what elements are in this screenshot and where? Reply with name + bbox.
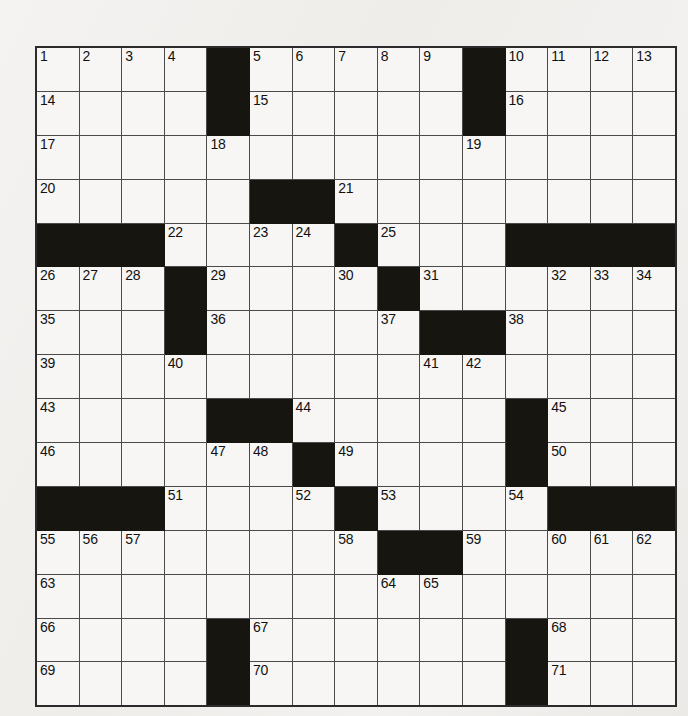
crossword-cell[interactable] — [590, 399, 633, 443]
crossword-cell[interactable] — [207, 530, 250, 574]
crossword-cell[interactable] — [207, 486, 250, 530]
crossword-cell[interactable]: 24 — [292, 223, 335, 267]
crossword-cell[interactable]: 28 — [122, 267, 165, 311]
crossword-cell[interactable]: 18 — [207, 135, 250, 179]
crossword-cell[interactable]: 53 — [377, 486, 420, 530]
crossword-cell[interactable]: 22 — [164, 223, 207, 267]
crossword-cell[interactable] — [633, 135, 676, 179]
crossword-cell[interactable]: 51 — [164, 486, 207, 530]
crossword-cell[interactable]: 52 — [292, 486, 335, 530]
crossword-cell[interactable] — [79, 179, 122, 223]
crossword-cell[interactable] — [164, 135, 207, 179]
crossword-cell[interactable] — [164, 399, 207, 443]
crossword-cell[interactable]: 36 — [207, 311, 250, 355]
crossword-cell[interactable] — [462, 179, 505, 223]
crossword-cell[interactable]: 70 — [249, 662, 292, 706]
crossword-cell[interactable] — [505, 355, 548, 399]
crossword-cell[interactable] — [420, 135, 463, 179]
crossword-cell[interactable] — [633, 311, 676, 355]
crossword-cell[interactable] — [633, 179, 676, 223]
crossword-cell[interactable]: 1 — [36, 47, 79, 91]
crossword-cell[interactable] — [164, 443, 207, 487]
crossword-cell[interactable] — [79, 311, 122, 355]
crossword-cell[interactable]: 10 — [505, 47, 548, 91]
crossword-cell[interactable] — [590, 179, 633, 223]
crossword-cell[interactable] — [249, 311, 292, 355]
crossword-cell[interactable] — [548, 355, 591, 399]
crossword-cell[interactable]: 71 — [548, 662, 591, 706]
crossword-cell[interactable]: 64 — [377, 574, 420, 618]
crossword-cell[interactable]: 65 — [420, 574, 463, 618]
crossword-cell[interactable] — [164, 530, 207, 574]
crossword-cell[interactable] — [590, 443, 633, 487]
crossword-cell[interactable] — [462, 574, 505, 618]
crossword-cell[interactable] — [335, 91, 378, 135]
crossword-cell[interactable]: 35 — [36, 311, 79, 355]
crossword-cell[interactable] — [420, 443, 463, 487]
crossword-cell[interactable] — [79, 443, 122, 487]
crossword-cell[interactable] — [420, 618, 463, 662]
crossword-cell[interactable]: 45 — [548, 399, 591, 443]
crossword-cell[interactable] — [207, 355, 250, 399]
crossword-cell[interactable] — [79, 662, 122, 706]
crossword-cell[interactable] — [462, 618, 505, 662]
crossword-cell[interactable] — [377, 135, 420, 179]
crossword-cell[interactable]: 6 — [292, 47, 335, 91]
crossword-cell[interactable]: 34 — [633, 267, 676, 311]
crossword-cell[interactable]: 14 — [36, 91, 79, 135]
crossword-cell[interactable] — [79, 91, 122, 135]
crossword-cell[interactable] — [249, 135, 292, 179]
crossword-cell[interactable]: 2 — [79, 47, 122, 91]
crossword-cell[interactable]: 11 — [548, 47, 591, 91]
crossword-cell[interactable] — [79, 399, 122, 443]
crossword-cell[interactable] — [590, 91, 633, 135]
crossword-cell[interactable] — [164, 662, 207, 706]
crossword-cell[interactable] — [292, 574, 335, 618]
crossword-cell[interactable] — [292, 530, 335, 574]
crossword-cell[interactable]: 17 — [36, 135, 79, 179]
crossword-cell[interactable] — [207, 179, 250, 223]
crossword-cell[interactable] — [420, 179, 463, 223]
crossword-cell[interactable] — [335, 662, 378, 706]
crossword-cell[interactable] — [590, 662, 633, 706]
crossword-cell[interactable] — [462, 399, 505, 443]
crossword-cell[interactable] — [633, 355, 676, 399]
crossword-cell[interactable] — [335, 311, 378, 355]
crossword-cell[interactable]: 39 — [36, 355, 79, 399]
crossword-cell[interactable]: 7 — [335, 47, 378, 91]
crossword-cell[interactable] — [590, 311, 633, 355]
crossword-cell[interactable] — [249, 574, 292, 618]
crossword-cell[interactable]: 63 — [36, 574, 79, 618]
crossword-cell[interactable] — [462, 486, 505, 530]
crossword-cell[interactable]: 33 — [590, 267, 633, 311]
crossword-cell[interactable] — [633, 399, 676, 443]
crossword-cell[interactable] — [292, 311, 335, 355]
crossword-cell[interactable] — [548, 574, 591, 618]
crossword-cell[interactable]: 60 — [548, 530, 591, 574]
crossword-cell[interactable]: 29 — [207, 267, 250, 311]
crossword-cell[interactable]: 61 — [590, 530, 633, 574]
crossword-cell[interactable] — [548, 311, 591, 355]
crossword-cell[interactable]: 31 — [420, 267, 463, 311]
crossword-cell[interactable] — [420, 91, 463, 135]
crossword-cell[interactable] — [79, 355, 122, 399]
crossword-cell[interactable] — [377, 179, 420, 223]
crossword-grid[interactable]: 1234567891011121314151617181920212223242… — [35, 46, 677, 707]
crossword-cell[interactable] — [335, 135, 378, 179]
crossword-cell[interactable] — [164, 179, 207, 223]
crossword-cell[interactable] — [462, 443, 505, 487]
crossword-cell[interactable]: 21 — [335, 179, 378, 223]
crossword-cell[interactable] — [420, 486, 463, 530]
crossword-cell[interactable] — [122, 311, 165, 355]
crossword-cell[interactable] — [377, 618, 420, 662]
crossword-cell[interactable]: 37 — [377, 311, 420, 355]
crossword-cell[interactable]: 15 — [249, 91, 292, 135]
crossword-cell[interactable]: 42 — [462, 355, 505, 399]
crossword-cell[interactable]: 23 — [249, 223, 292, 267]
crossword-cell[interactable] — [207, 223, 250, 267]
crossword-cell[interactable]: 62 — [633, 530, 676, 574]
crossword-cell[interactable] — [505, 530, 548, 574]
crossword-cell[interactable]: 27 — [79, 267, 122, 311]
crossword-cell[interactable] — [548, 179, 591, 223]
crossword-cell[interactable]: 8 — [377, 47, 420, 91]
